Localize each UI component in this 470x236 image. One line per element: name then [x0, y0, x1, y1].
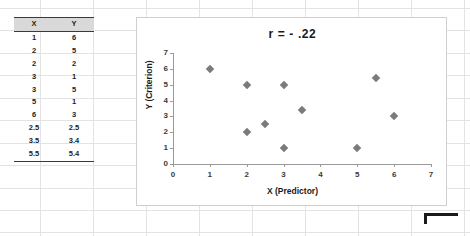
grid-column-line — [464, 0, 465, 236]
y-axis-tick — [170, 69, 173, 70]
cell-y[interactable]: 5 — [54, 45, 94, 58]
cell-y[interactable]: 3.4 — [54, 135, 94, 148]
column-header-y: Y — [54, 18, 94, 32]
cell-y[interactable]: 5 — [54, 84, 94, 97]
cell-y[interactable]: 5.4 — [54, 148, 94, 161]
scatter-point[interactable] — [279, 80, 287, 88]
scatter-point[interactable] — [390, 112, 398, 120]
y-axis-tick — [170, 53, 173, 54]
x-axis-line — [173, 164, 432, 165]
x-axis-tick-label: 7 — [421, 170, 441, 179]
grid-row-line — [0, 210, 470, 211]
spreadsheet-screenshot: X Y 162522313551632.52.53.53.45.55.4 r =… — [0, 0, 470, 236]
cell-x[interactable]: 1 — [14, 31, 54, 44]
table-row[interactable]: 2.52.5 — [14, 122, 94, 135]
y-axis-tick — [170, 132, 173, 133]
x-axis-tick — [431, 164, 432, 167]
grid-row-line — [0, 232, 470, 233]
table-row[interactable]: 3.53.4 — [14, 135, 94, 148]
table-row[interactable]: 51 — [14, 96, 94, 109]
x-axis-tick — [210, 164, 211, 167]
cell-x[interactable]: 6 — [14, 109, 54, 122]
y-axis-tick-label: 0 — [155, 159, 168, 168]
y-axis-tick-label: 6 — [155, 64, 168, 73]
data-table: X Y 162522313551632.52.53.53.45.55.4 — [14, 17, 94, 162]
cell-x[interactable]: 3 — [14, 84, 54, 97]
cell-y[interactable]: 2.5 — [54, 122, 94, 135]
corner-bracket-mark — [424, 213, 458, 224]
cell-y[interactable]: 1 — [54, 71, 94, 84]
x-axis-tick — [320, 164, 321, 167]
x-axis-tick-label: 5 — [347, 170, 367, 179]
table-row[interactable]: 16 — [14, 31, 94, 44]
table-row[interactable]: 22 — [14, 58, 94, 71]
scatter-chart[interactable]: r = - .22 0123456701234567 Y (Criterion)… — [136, 17, 447, 206]
y-axis-tick-label: 7 — [155, 48, 168, 57]
table-header-row: X Y — [14, 18, 94, 32]
grid-row-line — [0, 8, 470, 9]
scatter-point[interactable] — [298, 106, 306, 114]
cell-x[interactable]: 3.5 — [14, 135, 54, 148]
x-axis-tick-label: 0 — [163, 170, 183, 179]
x-axis-tick-label: 3 — [274, 170, 294, 179]
y-axis-tick-label: 2 — [155, 127, 168, 136]
x-axis-label: X (Predictor) — [137, 186, 448, 196]
scatter-point[interactable] — [206, 65, 214, 73]
y-axis-line — [173, 53, 174, 165]
scatter-point[interactable] — [242, 80, 250, 88]
x-axis-tick — [284, 164, 285, 167]
cell-y[interactable]: 3 — [54, 109, 94, 122]
scatter-point[interactable] — [353, 144, 361, 152]
y-axis-tick — [170, 148, 173, 149]
table-row[interactable]: 31 — [14, 71, 94, 84]
x-axis-tick — [357, 164, 358, 167]
scatter-point[interactable] — [371, 74, 379, 82]
cell-x[interactable]: 2 — [14, 45, 54, 58]
y-axis-tick — [170, 85, 173, 86]
cell-x[interactable]: 3 — [14, 71, 54, 84]
x-axis-tick-label: 2 — [237, 170, 257, 179]
x-axis-tick — [394, 164, 395, 167]
x-axis-tick — [247, 164, 248, 167]
plot-area: 0123456701234567 — [173, 53, 431, 164]
cell-y[interactable]: 1 — [54, 96, 94, 109]
y-axis-tick-label: 4 — [155, 96, 168, 105]
scatter-point[interactable] — [242, 128, 250, 136]
cell-y[interactable]: 2 — [54, 58, 94, 71]
table-row[interactable]: 63 — [14, 109, 94, 122]
table-row[interactable]: 25 — [14, 45, 94, 58]
x-axis-tick-label: 6 — [384, 170, 404, 179]
scatter-point[interactable] — [261, 120, 269, 128]
y-axis-tick-label: 3 — [155, 111, 168, 120]
table-header: X Y — [14, 18, 94, 32]
cell-y[interactable]: 6 — [54, 31, 94, 44]
y-axis-tick — [170, 116, 173, 117]
table-row[interactable]: 5.55.4 — [14, 148, 94, 161]
x-axis-tick-label: 1 — [200, 170, 220, 179]
chart-title: r = - .22 — [137, 27, 448, 41]
column-header-x: X — [14, 18, 54, 32]
y-axis-label: Y (Criterion) — [144, 40, 154, 130]
y-axis-tick — [170, 101, 173, 102]
y-axis-tick — [170, 164, 173, 165]
cell-x[interactable]: 5 — [14, 96, 54, 109]
x-axis-tick — [173, 164, 174, 167]
x-axis-tick-label: 4 — [310, 170, 330, 179]
corner-bracket-horizontal — [424, 213, 458, 216]
cell-x[interactable]: 2 — [14, 58, 54, 71]
table-row[interactable]: 35 — [14, 84, 94, 97]
scatter-point[interactable] — [279, 144, 287, 152]
corner-bracket-vertical — [424, 213, 427, 224]
cell-x[interactable]: 2.5 — [14, 122, 54, 135]
cell-x[interactable]: 5.5 — [14, 148, 54, 161]
y-axis-tick-label: 5 — [155, 80, 168, 89]
y-axis-tick-label: 1 — [155, 143, 168, 152]
table-body: 162522313551632.52.53.53.45.55.4 — [14, 31, 94, 161]
